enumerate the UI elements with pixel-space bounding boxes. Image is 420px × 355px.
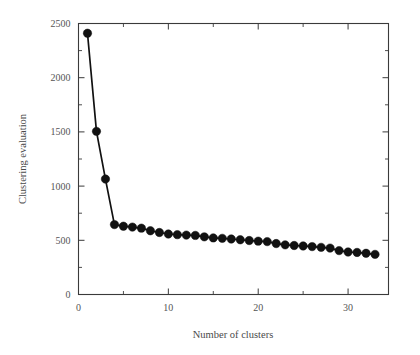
y-tick-label: 2000 xyxy=(51,72,71,83)
data-point-marker xyxy=(281,241,289,249)
y-tick-label: 2500 xyxy=(51,18,71,29)
data-point-marker xyxy=(335,246,343,254)
data-point-marker xyxy=(272,239,280,247)
x-axis-title: Number of clusters xyxy=(193,329,273,340)
data-point-marker xyxy=(137,224,145,232)
data-point-marker xyxy=(83,29,91,37)
y-axis-title: Clustering evaluation xyxy=(17,113,28,204)
chart-figure: 0102030 05001000150020002500 Number of c… xyxy=(0,0,420,355)
data-point-marker xyxy=(191,231,199,239)
data-point-marker xyxy=(146,227,154,235)
data-point-marker xyxy=(290,241,298,249)
x-axis-tick-labels: 0102030 xyxy=(76,302,353,313)
data-point-marker xyxy=(299,242,307,250)
data-point-marker xyxy=(218,234,226,242)
data-point-marker xyxy=(362,249,370,257)
series-markers xyxy=(83,29,379,259)
data-point-marker xyxy=(164,230,172,238)
data-point-marker xyxy=(200,233,208,241)
data-point-marker xyxy=(344,248,352,256)
data-point-marker xyxy=(155,228,163,236)
y-tick-label: 500 xyxy=(56,235,71,246)
data-series-clustering-evaluation xyxy=(83,29,379,259)
clustering-evaluation-line-chart: 0102030 05001000150020002500 Number of c… xyxy=(0,0,420,355)
data-point-marker xyxy=(209,234,217,242)
data-point-marker xyxy=(92,127,100,135)
x-tick-label: 20 xyxy=(253,302,263,313)
y-tick-label: 1000 xyxy=(51,181,71,192)
data-point-marker xyxy=(326,244,334,252)
data-point-marker xyxy=(371,250,379,258)
data-point-marker xyxy=(308,242,316,250)
data-point-marker xyxy=(353,248,361,256)
data-point-marker xyxy=(119,222,127,230)
data-point-marker xyxy=(182,231,190,239)
data-point-marker xyxy=(128,223,136,231)
x-tick-label: 0 xyxy=(76,302,81,313)
data-point-marker xyxy=(245,236,253,244)
data-point-marker xyxy=(254,237,262,245)
data-point-marker xyxy=(263,237,271,245)
y-tick-label: 0 xyxy=(66,289,71,300)
data-point-marker xyxy=(110,220,118,228)
y-tick-label: 1500 xyxy=(51,126,71,137)
data-point-marker xyxy=(227,235,235,243)
data-point-marker xyxy=(173,230,181,238)
series-line xyxy=(87,33,375,254)
data-point-marker xyxy=(236,236,244,244)
data-point-marker xyxy=(317,243,325,251)
data-point-marker xyxy=(101,175,109,183)
x-tick-label: 30 xyxy=(343,302,353,313)
x-tick-label: 10 xyxy=(163,302,173,313)
y-axis-tick-labels: 05001000150020002500 xyxy=(51,18,71,300)
